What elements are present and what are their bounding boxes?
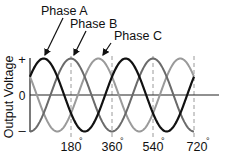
phase-b-arrow-icon	[74, 31, 86, 55]
y-axis-label: Output Voltage	[2, 56, 16, 139]
phase-c-arrow-icon	[103, 43, 111, 55]
degree-symbol: °	[79, 136, 83, 146]
phase-a-label: Phase A	[41, 4, 88, 18]
phase-b-label: Phase B	[70, 17, 117, 31]
x-tick-labels: 180 ° 360 ° 540 ° 720 °	[61, 136, 210, 154]
y-tick-zero: 0	[19, 89, 26, 103]
degree-symbol: °	[206, 136, 210, 146]
phase-a-arrow-icon	[45, 18, 63, 55]
degree-symbol: °	[161, 136, 165, 146]
chart-canvas: Output Voltage + 0 – 180 ° 360 ° 540 ° 7…	[0, 0, 226, 157]
x-tick-720: 720	[187, 140, 208, 154]
three-phase-voltage-chart: Output Voltage + 0 – 180 ° 360 ° 540 ° 7…	[0, 0, 226, 157]
degree-symbol: °	[120, 136, 124, 146]
y-tick-minus: –	[18, 123, 26, 138]
svg-text:720: 720	[187, 140, 208, 154]
phase-c-label: Phase C	[114, 29, 162, 43]
y-tick-plus: +	[18, 52, 26, 67]
